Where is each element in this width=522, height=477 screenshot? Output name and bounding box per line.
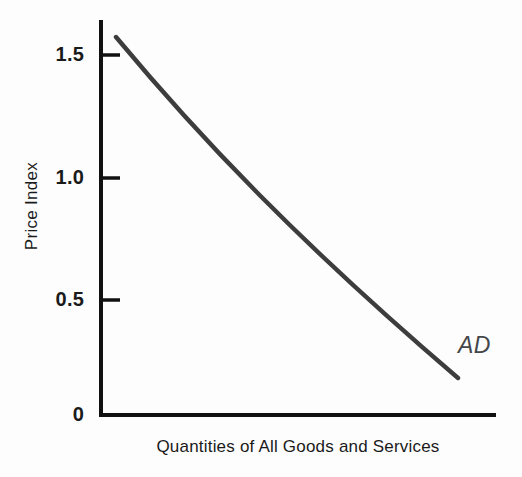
y-origin-label: 0 — [22, 404, 84, 424]
aggregate-demand-chart: 1.5 1.0 0.5 0 Price Index Quantities of … — [0, 0, 522, 477]
aggregate-demand-curve — [116, 37, 458, 378]
y-axis-label: Price Index — [22, 136, 42, 276]
y-tick-label-0-5: 0.5 — [22, 289, 84, 309]
curve-label-ad: AD — [458, 332, 491, 359]
x-axis-label: Quantities of All Goods and Services — [100, 437, 496, 457]
y-tick-label-1-5: 1.5 — [22, 44, 84, 64]
